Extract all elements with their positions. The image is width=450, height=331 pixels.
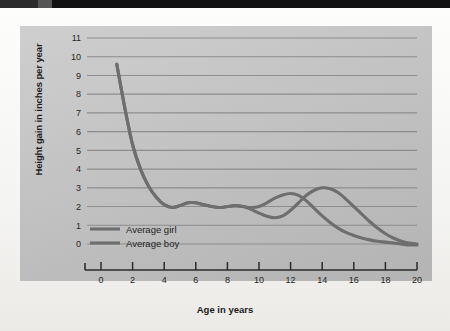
x-tick-label: 12: [286, 275, 296, 285]
legend: Average girlAverage boy: [90, 224, 179, 249]
y-tick-label: 6: [76, 127, 81, 137]
gridline-group: [87, 38, 417, 244]
scan-top-band: [0, 0, 450, 8]
x-tick-label: 18: [380, 275, 390, 285]
data-series-group: [117, 64, 417, 245]
y-tick-label: 4: [76, 164, 81, 174]
x-tick-label-group: 02468101214161820: [98, 275, 422, 285]
y-tick-label: 3: [76, 183, 81, 193]
y-tick-label-group: 01234567891011: [71, 33, 81, 249]
x-axis-line-group: [85, 262, 417, 270]
x-tick-label: 0: [98, 275, 103, 285]
y-tick-label: 2: [76, 202, 81, 212]
x-tick-label: 10: [254, 275, 264, 285]
y-tick-label: 5: [76, 146, 81, 156]
x-tick-label: 2: [130, 275, 135, 285]
x-tick-label: 16: [349, 275, 359, 285]
y-tick-label: 7: [76, 108, 81, 118]
x-tick-label: 20: [412, 275, 422, 285]
y-tick-label: 11: [72, 33, 81, 43]
y-tick-label: 0: [76, 239, 81, 249]
x-tick-label: 8: [225, 275, 230, 285]
x-tick-label: 6: [193, 275, 198, 285]
legend-label: Average girl: [126, 224, 177, 235]
y-tick-label: 9: [76, 71, 81, 81]
y-tick-label: 10: [71, 52, 81, 62]
figure-page: Height gain in inches per year Age in ye…: [0, 0, 450, 331]
legend-label: Average boy: [126, 238, 179, 249]
y-tick-label: 1: [76, 221, 81, 231]
x-tick-label: 14: [317, 275, 327, 285]
series-line: [117, 64, 417, 244]
scan-band-segment-mid: [38, 0, 52, 8]
y-tick-label: 8: [76, 89, 81, 99]
x-tick-label: 4: [162, 275, 167, 285]
scan-band-segment-left: [0, 0, 38, 8]
chart-plot: 01234567891011 02468101214161820 Average…: [0, 8, 450, 331]
